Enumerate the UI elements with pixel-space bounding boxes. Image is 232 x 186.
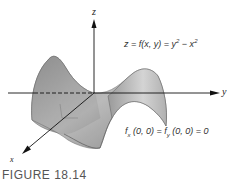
z-axis-arrow-icon bbox=[92, 19, 97, 28]
partial-derivatives-equation: fx (0, 0) = fy (0, 0) = 0 bbox=[125, 126, 209, 138]
y-axis-label: y bbox=[222, 86, 226, 97]
y-axis-arrow-icon bbox=[210, 91, 220, 96]
figure-caption: FIGURE 18.14 bbox=[2, 168, 87, 182]
z-axis-label: z bbox=[92, 6, 96, 17]
saddle-surface-diagram bbox=[0, 0, 232, 186]
surface-equation: z = f(x, y) = y2 − x2 bbox=[124, 38, 197, 49]
x-axis-label: x bbox=[10, 155, 14, 164]
